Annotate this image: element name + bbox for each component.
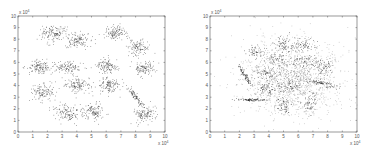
scatter-plot-right: 012345678910012345678910x 104x 104	[185, 0, 369, 154]
scatter-points	[23, 23, 159, 126]
y-tick-label: 10	[203, 14, 209, 19]
x-tick-label: 1	[31, 134, 34, 139]
x-tick-label: 9	[149, 134, 152, 139]
y-tick-label: 9	[205, 25, 208, 30]
x-tick-label: 0	[17, 134, 20, 139]
x-tick-label: 0	[209, 134, 212, 139]
axes-frame	[18, 16, 165, 132]
y-tick-label: 1	[205, 118, 208, 123]
x-tick-label: 1	[223, 134, 226, 139]
x-tick-label: 2	[238, 134, 241, 139]
x-tick-label: 3	[61, 134, 64, 139]
y-tick-label: 6	[205, 60, 208, 65]
scatter-svg-left: 012345678910012345678910x 104x 104	[0, 0, 185, 154]
y-tick-label: 3	[13, 95, 16, 100]
y-tick-label: 4	[205, 83, 208, 88]
x-multiplier-label: x 104	[158, 140, 169, 146]
tick-labels: 012345678910012345678910	[11, 14, 168, 139]
y-tick-label: 8	[13, 37, 16, 42]
x-tick-label: 8	[326, 134, 329, 139]
y-tick-label: 5	[13, 72, 16, 77]
axis-ticks	[18, 16, 165, 132]
y-tick-label: 10	[11, 14, 17, 19]
x-multiplier-label: x 104	[350, 140, 361, 146]
y-tick-label: 6	[13, 60, 16, 65]
y-tick-label: 7	[13, 48, 16, 53]
x-tick-label: 6	[297, 134, 300, 139]
scatter-svg-right: 012345678910012345678910x 104x 104	[185, 0, 369, 154]
x-tick-label: 10	[354, 134, 360, 139]
y-tick-label: 2	[205, 106, 208, 111]
x-tick-label: 4	[268, 134, 271, 139]
y-tick-label: 2	[13, 106, 16, 111]
axis-ticks	[210, 16, 357, 132]
y-tick-label: 8	[205, 37, 208, 42]
scatter-points	[214, 17, 357, 130]
x-tick-label: 10	[162, 134, 168, 139]
x-tick-label: 6	[105, 134, 108, 139]
scatter-plot-left: 012345678910012345678910x 104x 104	[0, 0, 185, 154]
x-tick-label: 7	[120, 134, 123, 139]
x-tick-label: 8	[134, 134, 137, 139]
x-tick-label: 2	[46, 134, 49, 139]
y-multiplier-label: x 104	[211, 9, 222, 15]
y-tick-label: 7	[205, 48, 208, 53]
x-tick-label: 5	[282, 134, 285, 139]
y-tick-label: 3	[205, 95, 208, 100]
y-tick-label: 5	[205, 72, 208, 77]
axes-frame	[210, 16, 357, 132]
x-tick-label: 5	[90, 134, 93, 139]
y-multiplier-label: x 104	[19, 9, 30, 15]
x-tick-label: 9	[341, 134, 344, 139]
y-tick-label: 9	[13, 25, 16, 30]
x-tick-label: 3	[253, 134, 256, 139]
y-tick-label: 4	[13, 83, 16, 88]
y-tick-label: 1	[13, 118, 16, 123]
x-tick-label: 7	[312, 134, 315, 139]
x-tick-label: 4	[76, 134, 79, 139]
